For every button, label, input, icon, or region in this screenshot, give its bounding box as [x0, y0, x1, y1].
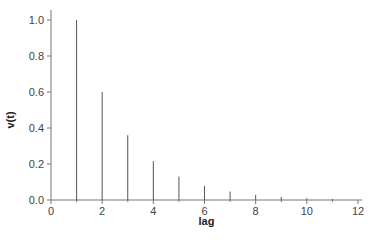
x-tick-label: 0: [48, 205, 54, 217]
plot-area: 0.00.20.40.60.81.0024681012lagv(t): [4, 10, 364, 227]
x-tick-label: 2: [99, 205, 105, 217]
y-tick-label: 0.4: [29, 122, 44, 134]
y-tick-label: 1.0: [29, 14, 44, 26]
x-tick-label: 12: [352, 205, 364, 217]
y-tick-label: 0.2: [29, 158, 44, 170]
y-axis-title: v(t): [4, 111, 16, 128]
stem-chart: 0.00.20.40.60.81.0024681012lagv(t): [0, 0, 375, 244]
x-tick-label: 8: [253, 205, 259, 217]
x-axis-title: lag: [199, 215, 215, 227]
y-tick-label: 0.8: [29, 50, 44, 62]
y-tick-label: 0.6: [29, 86, 44, 98]
x-tick-label: 10: [301, 205, 313, 217]
y-tick-label: 0.0: [29, 194, 44, 206]
x-tick-label: 4: [150, 205, 156, 217]
